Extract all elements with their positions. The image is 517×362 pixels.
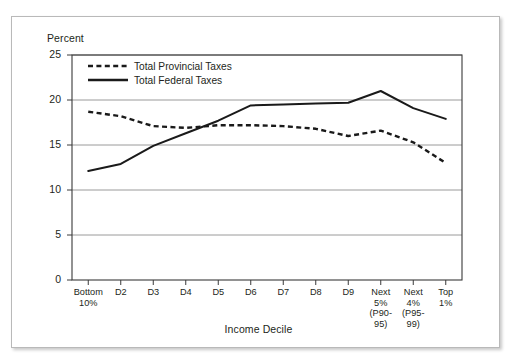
tax-rate-line-chart: Percent 0510152025 Bottom10%D2D3D4D5D6D7…: [0, 0, 517, 362]
x-tick-label-line: 10%: [65, 298, 111, 309]
y-tick-label-0: 0: [31, 273, 61, 285]
y-tick-label-4: 20: [31, 93, 61, 105]
y-tick-label-5: 25: [31, 48, 61, 60]
plot-border: [72, 55, 462, 280]
legend-label-federal: Total Federal Taxes: [134, 75, 222, 86]
series-line-federal: [88, 91, 446, 171]
x-axis-title: Income Decile: [0, 323, 517, 335]
y-tick-label-2: 10: [31, 183, 61, 195]
y-tick-label-1: 5: [31, 228, 61, 240]
x-tick-label-line: 1%: [423, 298, 469, 309]
x-tick-label-11: Top1%: [423, 287, 469, 308]
x-tick-label-line: (P95-: [390, 308, 436, 319]
x-tick-label-line: Top: [423, 287, 469, 298]
legend-label-provincial: Total Provincial Taxes: [134, 61, 232, 72]
y-tick-label-3: 15: [31, 138, 61, 150]
series-line-provincial: [88, 112, 446, 163]
